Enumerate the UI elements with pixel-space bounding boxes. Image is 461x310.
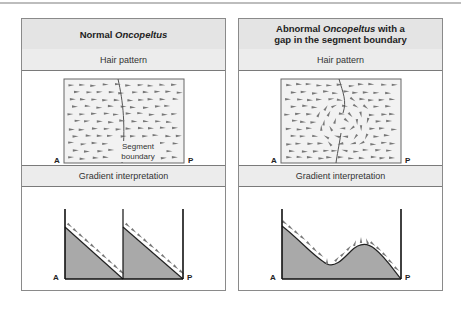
segment-label-2: boundary xyxy=(121,152,154,161)
title-line-2: gap in the segment boundary xyxy=(274,34,407,45)
gradient-interpretation-header: Gradient interpretation xyxy=(22,165,225,187)
title-species: Oncopeltus xyxy=(115,29,167,40)
axis-label-p: P xyxy=(187,273,193,282)
axis-label-p: P xyxy=(405,156,411,165)
top-rule xyxy=(0,2,461,4)
hair-pattern-header: Hair pattern xyxy=(22,49,225,71)
hair-pattern-header: Hair pattern xyxy=(239,49,442,71)
panel-title-abnormal: Abnormal Oncopeltus with a gap in the se… xyxy=(239,19,442,50)
axis-label-p: P xyxy=(188,156,194,165)
panel-abnormal: Abnormal Oncopeltus with a gap in the se… xyxy=(238,18,443,291)
gradient-figure-abnormal: A P xyxy=(239,187,442,291)
hair-pattern-figure-normal: Segment boundary A P xyxy=(22,71,225,165)
gradient-fill xyxy=(282,226,401,279)
axis-label-a: A xyxy=(271,156,277,165)
title-suffix: with a xyxy=(375,23,405,34)
axis-label-p: P xyxy=(405,273,411,282)
title-prefix: Abnormal xyxy=(276,23,323,34)
title-species: Oncopeltus xyxy=(323,23,375,34)
segment-label-1: Segment xyxy=(122,142,155,151)
hair-field xyxy=(281,79,401,163)
gradient-figure-normal: A P xyxy=(22,187,225,291)
title-prefix: Normal xyxy=(80,29,115,40)
axis-label-a: A xyxy=(53,273,59,282)
axis-label-a: A xyxy=(270,273,276,282)
gradient-interpretation-header: Gradient interpretation xyxy=(239,165,442,187)
panel-normal: Normal Oncopeltus Hair pattern Segment b… xyxy=(21,18,226,291)
hair-pattern-figure-abnormal: A P xyxy=(239,71,442,165)
axis-label-a: A xyxy=(54,156,60,165)
panel-title-normal: Normal Oncopeltus xyxy=(22,19,225,50)
